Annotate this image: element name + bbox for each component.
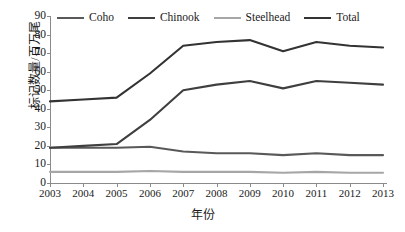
line-chart: CohoChinookSteelheadTotal 90807060504030… [0, 0, 405, 232]
series-line-total [50, 40, 383, 101]
y-tick-mark [47, 90, 51, 91]
y-tick-label: 10 [26, 158, 46, 170]
x-tick-label: 2004 [66, 188, 100, 199]
y-tick-mark [47, 16, 51, 17]
x-tick-mark [316, 183, 317, 187]
x-tick-mark [83, 183, 84, 187]
y-tick-mark [47, 164, 51, 165]
y-tick-label: 20 [26, 140, 46, 152]
x-tick-label: 2003 [33, 188, 67, 199]
x-tick-label: 2010 [266, 188, 300, 199]
x-tick-label: 2005 [100, 188, 134, 199]
x-tick-mark [383, 183, 384, 187]
y-axis-title: 标记数量/百万尾 [25, 5, 43, 125]
y-tick-mark [47, 53, 51, 54]
x-tick-label: 2006 [133, 188, 167, 199]
series-lines [50, 16, 386, 183]
x-tick-mark [150, 183, 151, 187]
y-tick-mark [47, 146, 51, 147]
series-line-chinook [50, 81, 383, 148]
x-axis-title: 年份 [0, 205, 405, 223]
series-line-coho [50, 147, 383, 155]
x-tick-mark [183, 183, 184, 187]
plot-area [50, 16, 386, 183]
y-tick-mark [47, 35, 51, 36]
x-tick-mark [283, 183, 284, 187]
x-tick-mark [350, 183, 351, 187]
x-tick-label: 2007 [166, 188, 200, 199]
x-tick-mark [50, 183, 51, 187]
y-tick-mark [47, 72, 51, 73]
x-tick-label: 2012 [333, 188, 367, 199]
y-tick-mark [47, 127, 51, 128]
x-tick-label: 2009 [233, 188, 267, 199]
x-tick-mark [117, 183, 118, 187]
x-tick-mark [217, 183, 218, 187]
x-axis-line [50, 183, 387, 184]
x-tick-mark [250, 183, 251, 187]
x-tick-label: 2013 [366, 188, 400, 199]
series-line-steelhead [50, 171, 383, 173]
y-tick-mark [47, 109, 51, 110]
x-tick-label: 2008 [200, 188, 234, 199]
x-axis-tick-labels: 2003200420052006200720082009201020112012… [50, 188, 387, 204]
x-tick-label: 2011 [299, 188, 333, 199]
